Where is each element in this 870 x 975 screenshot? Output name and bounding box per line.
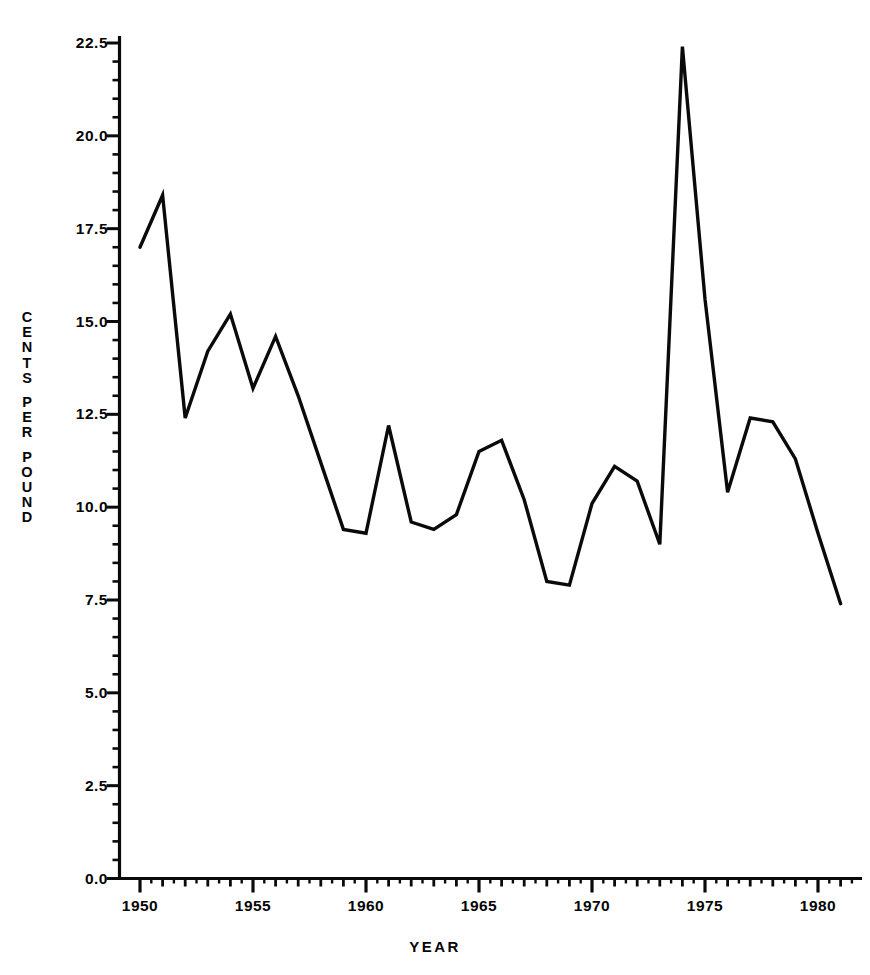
line-chart: 0.02.55.07.510.012.515.017.520.022.5 195… — [0, 0, 870, 975]
y-axis-tick-label: 20.0 — [52, 127, 108, 145]
y-axis-title-letter: R — [14, 425, 40, 440]
x-axis-title: YEAR — [0, 938, 870, 955]
x-axis-tick-label: 1955 — [235, 897, 271, 915]
y-axis-title-letter: P — [14, 450, 40, 465]
y-axis-tick-label: 0.0 — [52, 870, 108, 888]
y-axis-title-letter: N — [14, 340, 40, 355]
y-axis-title-letter: E — [14, 325, 40, 340]
x-axis-ticks — [140, 879, 852, 893]
y-axis-tick-label: 2.5 — [52, 777, 108, 795]
x-axis-tick-label: 1980 — [800, 897, 836, 915]
y-axis-tick-label: 10.0 — [52, 498, 108, 516]
y-axis-title-letter: P — [14, 395, 40, 410]
data-series-line — [140, 47, 841, 604]
axis-lines — [118, 36, 862, 879]
x-axis-tick-label: 1950 — [122, 897, 158, 915]
y-axis-ticks — [107, 43, 120, 879]
y-axis-title-letter: O — [14, 465, 40, 480]
y-axis-tick-label: 22.5 — [52, 34, 108, 52]
y-axis-title-letter: E — [14, 410, 40, 425]
y-axis-title-letter: T — [14, 356, 40, 371]
y-axis-title: CENTSPERPOUND — [14, 310, 40, 526]
plot-area — [0, 0, 870, 975]
y-axis-title-letter: S — [14, 371, 40, 386]
y-axis-tick-label: 7.5 — [52, 591, 108, 609]
y-axis-tick-label: 17.5 — [52, 220, 108, 238]
y-axis-tick-label: 5.0 — [52, 684, 108, 702]
x-axis-tick-label: 1965 — [461, 897, 497, 915]
y-axis-title-letter: C — [14, 310, 40, 325]
x-axis-tick-label: 1970 — [574, 897, 610, 915]
x-axis-tick-label: 1960 — [348, 897, 384, 915]
y-axis-tick-label: 12.5 — [52, 405, 108, 423]
y-axis-title-letter: D — [14, 510, 40, 525]
y-axis-tick-label: 15.0 — [52, 313, 108, 331]
x-axis-tick-label: 1975 — [687, 897, 723, 915]
y-axis-title-letter: U — [14, 480, 40, 495]
y-axis-title-letter: N — [14, 495, 40, 510]
